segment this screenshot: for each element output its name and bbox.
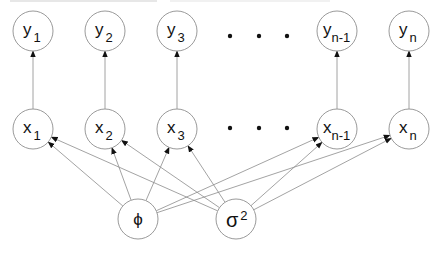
label-subscript: n — [410, 30, 417, 45]
hidden-node-x1: x1 — [13, 109, 53, 149]
label-base: ϕ — [133, 210, 143, 229]
observed-node-yn: yn — [389, 11, 429, 51]
ellipsis-dot — [228, 126, 232, 130]
label-subscript: 2 — [106, 30, 113, 45]
label-subscript: 3 — [178, 30, 185, 45]
nodes: y1y2y3yn-1ynx1x2x3xn-1xnϕσ2 — [13, 11, 429, 239]
label-base: y — [95, 20, 104, 39]
ellipsis-dot — [257, 126, 261, 130]
observed-node-y2: y2 — [85, 11, 125, 51]
edge-sigma2-to-x2 — [121, 140, 219, 207]
node-label: ϕ — [133, 210, 143, 229]
label-base: x — [23, 118, 32, 137]
label-subscript: n — [410, 128, 417, 143]
label-superscript: 2 — [240, 208, 247, 223]
label-subscript: 1 — [34, 30, 41, 45]
ellipsis-dot — [228, 34, 232, 38]
label-base: x — [399, 118, 408, 137]
ellipsis-dot — [257, 34, 261, 38]
hidden-node-x2: x2 — [85, 109, 125, 149]
label-base: σ — [226, 209, 239, 231]
label-base: x — [95, 118, 104, 137]
ellipsis-dot — [285, 34, 289, 38]
edge-phi-to-xn — [157, 135, 390, 212]
parameter-node-sigma2: σ2 — [216, 199, 256, 239]
label-base: y — [399, 20, 408, 39]
label-base: y — [167, 20, 176, 39]
label-subscript: 1 — [34, 128, 41, 143]
label-subscript: 3 — [178, 128, 185, 143]
hidden-node-xn: xn — [389, 109, 429, 149]
hidden-node-xn-1: xn-1 — [317, 109, 357, 149]
observed-node-yn-1: yn-1 — [317, 11, 357, 51]
label-base: y — [23, 20, 32, 39]
parameter-node-phi: ϕ — [118, 199, 158, 239]
ellipsis-dots — [228, 34, 289, 130]
hidden-node-x3: x3 — [157, 109, 197, 149]
observed-node-y3: y3 — [157, 11, 197, 51]
observed-node-y1: y1 — [13, 11, 53, 51]
label-subscript: n-1 — [332, 128, 351, 143]
graphical-model-diagram: y1y2y3yn-1ynx1x2x3xn-1xnϕσ2 — [0, 0, 445, 254]
label-subscript: 2 — [106, 128, 113, 143]
label-subscript: n-1 — [332, 30, 351, 45]
label-base: x — [167, 118, 176, 137]
ellipsis-dot — [285, 126, 289, 130]
edge-phi-to-x3 — [146, 147, 169, 200]
edge-phi-to-x2 — [112, 148, 131, 200]
edge-phi-to-x1 — [48, 142, 123, 206]
